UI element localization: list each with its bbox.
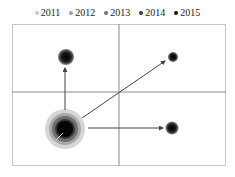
bubble-top-right xyxy=(168,52,178,62)
bubble-top-left xyxy=(58,49,74,65)
bubble-bottom-left xyxy=(45,109,85,149)
arrow-to-top-right xyxy=(82,61,165,118)
bubble-bottom-right xyxy=(166,122,179,135)
bubble-chart xyxy=(0,0,235,177)
